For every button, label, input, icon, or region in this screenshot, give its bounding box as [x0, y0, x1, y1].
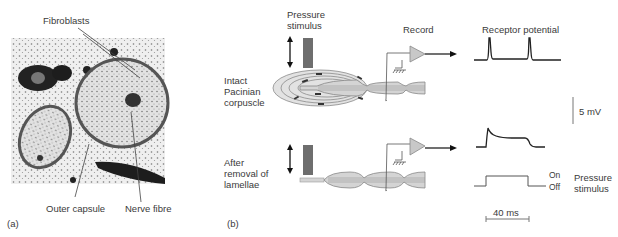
label-fibroblasts: Fibroblasts: [43, 15, 89, 26]
receptor-potential-trace-decapsulated: [476, 128, 545, 147]
arrow-right-icon: [450, 145, 457, 151]
header-receptor-potential: Receptor potential: [482, 24, 559, 35]
amplifier-icon: [410, 138, 425, 155]
label-on: On: [549, 170, 560, 181]
label-intact-corpuscle: Intact Pacinian corpuscle: [224, 75, 265, 108]
label-pressure-stimulus-trace: Pressure stimulus: [574, 172, 612, 194]
double-arrow-icon: [287, 144, 293, 174]
label-voltage-scale: 5 mV: [579, 106, 601, 117]
label-nerve-fibre: Nerve fibre: [125, 203, 171, 214]
panel-a-label: (a): [7, 218, 19, 229]
pressure-stimulus-trace: [474, 176, 546, 186]
label-time-scale: 40 ms: [493, 207, 519, 218]
stimulus-probe: [303, 38, 313, 68]
header-record: Record: [403, 24, 434, 35]
micrograph: [10, 28, 168, 202]
label-off: Off: [549, 182, 560, 193]
intact-corpuscle-diagram: [273, 36, 561, 106]
figure-canvas: [0, 0, 618, 237]
panel-b-label: (b): [227, 218, 239, 229]
receptor-potential-trace-intact: [474, 38, 561, 60]
label-after-removal: After removal of lamellae: [224, 157, 268, 190]
decapsulated-diagram: [287, 128, 546, 191]
amplifier-icon: [410, 46, 425, 62]
stimulus-probe: [303, 145, 313, 175]
label-outer-capsule: Outer capsule: [46, 203, 105, 214]
arrow-right-icon: [450, 51, 457, 57]
double-arrow-icon: [287, 36, 293, 68]
header-pressure-stimulus: Pressure stimulus: [287, 9, 325, 31]
